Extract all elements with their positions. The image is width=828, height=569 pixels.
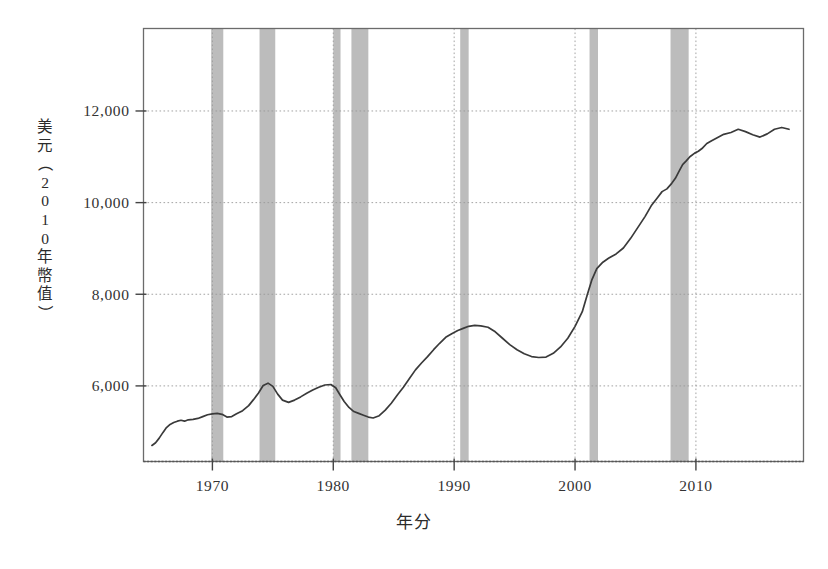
x-tick-label: 1970 xyxy=(196,477,229,494)
y-axis-title-char: ） xyxy=(36,296,55,330)
y-axis-title-char: 0 xyxy=(28,230,62,249)
y-axis-tick-labels: 6,0008,00010,00012,000 xyxy=(83,102,129,394)
y-axis-title-char: 1 xyxy=(28,211,62,230)
x-axis-tick-labels: 19701980199020002010 xyxy=(196,477,713,494)
y-axis-title-char: （ xyxy=(36,147,55,181)
recession-bands-group xyxy=(211,29,688,462)
y-axis-title-char: 0 xyxy=(28,192,62,211)
y-axis-title-char: 幣 xyxy=(28,267,62,286)
y-axis-title: 美元（2010年幣值） xyxy=(28,118,62,323)
x-tick-label: 2000 xyxy=(558,477,591,494)
x-tick-label: 1990 xyxy=(437,477,470,494)
gridlines-group xyxy=(144,29,804,462)
y-tick-label: 10,000 xyxy=(83,194,129,211)
recession-band xyxy=(590,29,598,462)
recession-band xyxy=(351,29,368,462)
plot-frame xyxy=(144,29,804,462)
recession-band xyxy=(211,29,223,462)
recession-band xyxy=(333,29,340,462)
recession-band xyxy=(671,29,689,462)
plot-border xyxy=(144,29,804,462)
recession-band xyxy=(460,29,468,462)
y-axis-title-char: 年 xyxy=(28,248,62,267)
y-tick-label: 12,000 xyxy=(83,102,129,119)
x-tick-label: 1980 xyxy=(317,477,350,494)
x-tick-label: 2010 xyxy=(679,477,712,494)
chart-canvas: 6,0008,00010,00012,000 19701980199020002… xyxy=(0,0,828,569)
y-tick-label: 8,000 xyxy=(92,286,130,303)
y-tick-label: 6,000 xyxy=(92,377,130,394)
y-axis-title-char: 美 xyxy=(28,118,62,137)
data-series-line xyxy=(152,127,789,445)
chart-figure: 6,0008,00010,00012,000 19701980199020002… xyxy=(0,0,828,569)
data-line-group xyxy=(152,127,789,445)
recession-band xyxy=(260,29,276,462)
x-axis-title: 年分 xyxy=(0,508,828,533)
